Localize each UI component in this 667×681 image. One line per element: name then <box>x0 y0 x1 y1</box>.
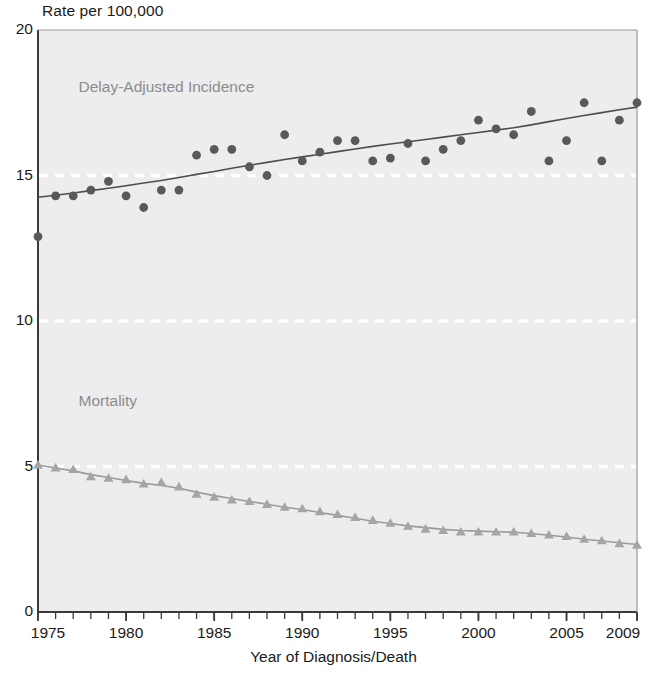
y-tick-label: 10 <box>3 311 33 329</box>
y-tick-label: 0 <box>3 602 33 620</box>
plot-canvas <box>0 0 667 681</box>
x-tick-label: 1980 <box>109 624 143 642</box>
x-tick-label: 1975 <box>31 624 65 642</box>
x-tick-label: 2009 <box>606 624 640 642</box>
x-axis-title: Year of Diagnosis/Death <box>0 648 667 666</box>
y-tick-label: 15 <box>3 166 33 184</box>
x-tick-label: 1990 <box>285 624 319 642</box>
x-tick-label: 2005 <box>549 624 583 642</box>
x-tick-label: 1985 <box>197 624 231 642</box>
series-label-mortality: Mortality <box>79 392 138 410</box>
y-tick-label: 20 <box>3 20 33 38</box>
series-label-incidence: Delay-Adjusted Incidence <box>79 78 255 96</box>
y-tick-label: 5 <box>3 457 33 475</box>
x-tick-label: 1995 <box>373 624 407 642</box>
x-tick-label: 2000 <box>461 624 495 642</box>
chart-figure: Rate per 100,000 05101520 19751980198519… <box>0 0 667 681</box>
x-axis-minor-ticks <box>38 612 637 619</box>
